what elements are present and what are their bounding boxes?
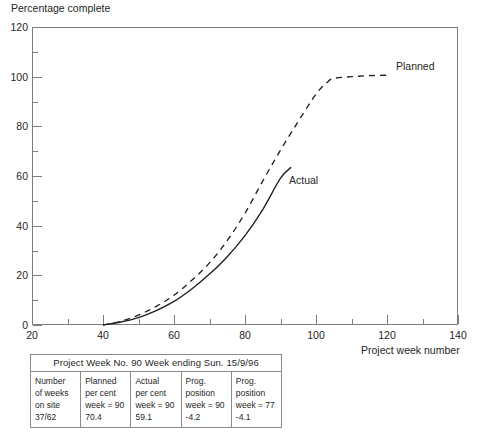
- table-cell-line: week = 90: [85, 399, 127, 411]
- table-cell-line: week = 77: [236, 399, 278, 411]
- x-tick-label: 40: [88, 329, 118, 341]
- y-tick-label: 80: [2, 120, 28, 132]
- x-tick-major: [458, 315, 459, 324]
- x-tick-label: 20: [17, 329, 47, 341]
- table-cell-line: -4.1: [236, 411, 278, 423]
- table-cell-line: Planned: [85, 375, 127, 387]
- table-cell-line: position: [186, 387, 228, 399]
- table-cell: Prog.positionweek = 90-4.2: [182, 372, 232, 427]
- x-tick-label: 120: [372, 329, 402, 341]
- y-axis-title: Percentage complete: [11, 2, 110, 14]
- table-cell-line: of weeks: [35, 387, 77, 399]
- table-cell: Prog.positionweek = 77-4.1: [232, 372, 281, 427]
- y-tick-major: [33, 325, 42, 326]
- table-cell-line: Actual: [135, 375, 177, 387]
- table-cell-line: Number: [35, 375, 77, 387]
- x-tick-label: 140: [443, 329, 473, 341]
- table-cell-line: 37/62: [35, 411, 77, 423]
- series-label-planned: Planned: [396, 60, 435, 72]
- y-tick-label: 40: [2, 220, 28, 232]
- table-cell-line: Prog.: [236, 375, 278, 387]
- x-tick-label: 80: [230, 329, 260, 341]
- table-cell-line: -4.2: [186, 411, 228, 423]
- table-cell-line: per cent: [85, 387, 127, 399]
- y-tick-label: 120: [2, 21, 28, 33]
- table-row: Numberof weekson site37/62Plannedper cen…: [31, 372, 281, 427]
- series-label-actual: Actual: [289, 174, 318, 186]
- table-cell-line: per cent: [135, 387, 177, 399]
- x-axis-title: Project week number: [361, 344, 460, 356]
- y-tick-label: 20: [2, 269, 28, 281]
- table-header: Project Week No. 90 Week ending Sun. 15/…: [31, 355, 281, 372]
- plot-area: [32, 27, 458, 325]
- y-tick-label: 100: [2, 71, 28, 83]
- table-cell-line: position: [236, 387, 278, 399]
- chart-page: Percentage complete Project week number …: [0, 0, 477, 437]
- table-cell: Plannedper centweek = 9070.4: [81, 372, 131, 427]
- table-cell: Actualper centweek = 9059.1: [131, 372, 181, 427]
- table-cell: Numberof weekson site37/62: [31, 372, 81, 427]
- x-tick-label: 100: [301, 329, 331, 341]
- y-tick-label: 60: [2, 170, 28, 182]
- series-line-planned: [103, 75, 387, 325]
- table-cell-line: 70.4: [85, 411, 127, 423]
- table-cell-line: Prog.: [186, 375, 228, 387]
- summary-table: Project Week No. 90 Week ending Sun. 15/…: [30, 354, 282, 428]
- table-cell-line: on site: [35, 399, 77, 411]
- series-line-actual: [103, 167, 291, 325]
- series-canvas: [32, 27, 458, 325]
- table-cell-line: week = 90: [135, 399, 177, 411]
- table-cell-line: 59.1: [135, 411, 177, 423]
- x-tick-label: 60: [159, 329, 189, 341]
- table-cell-line: week = 90: [186, 399, 228, 411]
